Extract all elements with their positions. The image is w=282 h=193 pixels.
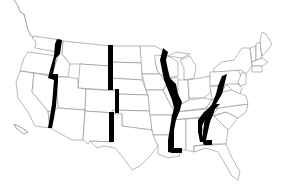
boundary-rockies-south (109, 112, 114, 142)
state-south-dakota (110, 62, 142, 80)
state-iowa (142, 74, 167, 90)
boundary-rockies-mid (115, 89, 119, 113)
puget-sound-coastline (14, 0, 33, 38)
state-colorado (85, 89, 117, 113)
state-new-york (214, 48, 252, 74)
us-states-map (0, 0, 282, 193)
state-connecticut-ri (252, 66, 262, 72)
state-michigan (180, 56, 196, 80)
state-kansas (117, 94, 150, 111)
state-north-dakota (110, 46, 142, 63)
state-arkansas (150, 115, 172, 135)
state-maine (260, 32, 272, 56)
state-florida (194, 144, 240, 180)
baja-coastline (14, 124, 28, 134)
state-ohio (188, 76, 211, 98)
state-new-mexico (83, 111, 112, 144)
state-montana (62, 41, 110, 66)
boundary-rockies-north (108, 45, 113, 90)
state-wyoming (78, 64, 109, 90)
